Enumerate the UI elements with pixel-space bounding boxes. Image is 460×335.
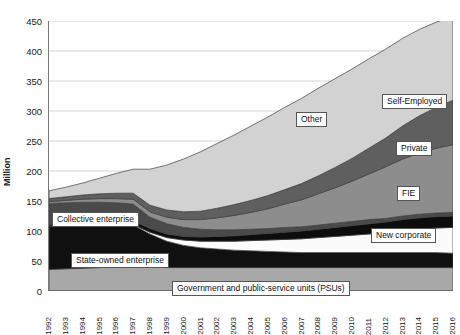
y-tick-450: 450 xyxy=(14,16,42,27)
callout-state-owned-enterprise: State-owned enterprise xyxy=(71,253,169,268)
callout-private: Private xyxy=(396,141,432,156)
x-tick-label-1997: 1997 xyxy=(128,317,137,335)
x-tick-label-2011: 2011 xyxy=(364,318,373,335)
y-tick-150: 150 xyxy=(14,196,42,207)
callout-collective-enterprise: Collective enterprise xyxy=(52,212,139,227)
callout-psus: Government and public-service units (PSU… xyxy=(172,281,350,296)
x-tick-label-2007: 2007 xyxy=(297,317,306,335)
x-tick-label-2004: 2004 xyxy=(246,317,255,335)
x-tick-label-1993: 1993 xyxy=(61,317,70,335)
x-tick-label-1998: 1998 xyxy=(145,317,154,335)
x-tick-label-2012: 2012 xyxy=(381,317,390,335)
x-tick-label-2016: 2016 xyxy=(448,317,457,335)
y-tick-350: 350 xyxy=(14,76,42,87)
x-tick-label-2003: 2003 xyxy=(229,317,238,335)
y-tick-0: 0 xyxy=(14,286,42,297)
x-tick-label-2013: 2013 xyxy=(398,317,407,335)
y-axis-tick-labels: 450 400 350 300 250 200 150 100 50 0 xyxy=(12,0,42,335)
callout-new-corporate: New corporate xyxy=(371,228,436,243)
x-tick-label-2008: 2008 xyxy=(313,317,322,335)
x-tick-label-2010: 2010 xyxy=(347,317,356,335)
x-tick-label-2001: 2001 xyxy=(196,317,205,335)
area-series-canvas xyxy=(49,21,453,291)
x-tick-label-2002: 2002 xyxy=(212,317,221,335)
x-tick-label-2014: 2014 xyxy=(414,317,423,335)
callout-self-employed: Self-Employed xyxy=(382,94,447,109)
plot-area xyxy=(48,21,453,291)
x-tick-label-1999: 1999 xyxy=(162,317,171,335)
y-tick-300: 300 xyxy=(14,106,42,117)
x-axis-tick-labels: 1992199319941995199619971998199920002001… xyxy=(48,294,452,335)
callout-fie: FIE xyxy=(397,186,420,201)
x-tick-label-2015: 2015 xyxy=(431,317,440,335)
y-tick-400: 400 xyxy=(14,46,42,57)
x-tick-label-1995: 1995 xyxy=(95,317,104,335)
callout-other: Other xyxy=(296,112,327,127)
x-tick-label-1994: 1994 xyxy=(78,317,87,335)
x-tick-label-1996: 1996 xyxy=(111,317,120,335)
x-tick-label-2006: 2006 xyxy=(280,317,289,335)
x-tick-label-1992: 1992 xyxy=(44,317,53,335)
x-tick-label-2005: 2005 xyxy=(263,317,272,335)
x-tick-label-2009: 2009 xyxy=(330,317,339,335)
x-tick-label-2000: 2000 xyxy=(179,317,188,335)
y-tick-250: 250 xyxy=(14,136,42,147)
stacked-area-chart: Million 450 400 350 300 250 200 150 100 … xyxy=(0,0,460,335)
y-tick-100: 100 xyxy=(14,226,42,237)
y-tick-50: 50 xyxy=(14,256,42,267)
y-tick-200: 200 xyxy=(14,166,42,177)
